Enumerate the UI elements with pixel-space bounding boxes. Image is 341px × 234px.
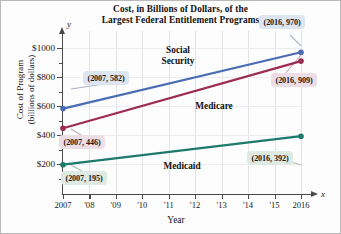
series-label-medicaid: Medicaid — [151, 161, 213, 172]
series-label-social-security: Social Security — [147, 45, 209, 67]
point-medicaid-2016 — [298, 133, 304, 139]
callout-medicare-2007: (2007, 446) — [59, 135, 105, 149]
callout-medicaid-2007: (2007, 195) — [61, 171, 107, 185]
chart-frame: Cost, in Billions of Dollars, of the Lar… — [0, 0, 341, 234]
leader-line-ss-2016 — [290, 35, 301, 46]
point-medicare-2007 — [60, 126, 66, 132]
series-label-social-security-line-1: Social — [147, 45, 209, 56]
point-social-security-2007 — [60, 106, 66, 112]
callout-social-security-2016: (2016, 970) — [259, 15, 305, 29]
series-label-social-security-line-2: Security — [147, 56, 209, 67]
callout-social-security-2007: (2007, 582) — [83, 71, 129, 85]
series-label-medicare: Medicare — [183, 101, 245, 112]
callout-medicaid-2016: (2016, 392) — [247, 151, 293, 165]
point-medicaid-2007 — [60, 162, 66, 168]
series-lines — [1, 1, 341, 234]
callout-medicare-2016: (2016, 909) — [271, 73, 317, 87]
point-social-security-2016 — [298, 50, 304, 56]
point-medicare-2016 — [298, 58, 304, 64]
